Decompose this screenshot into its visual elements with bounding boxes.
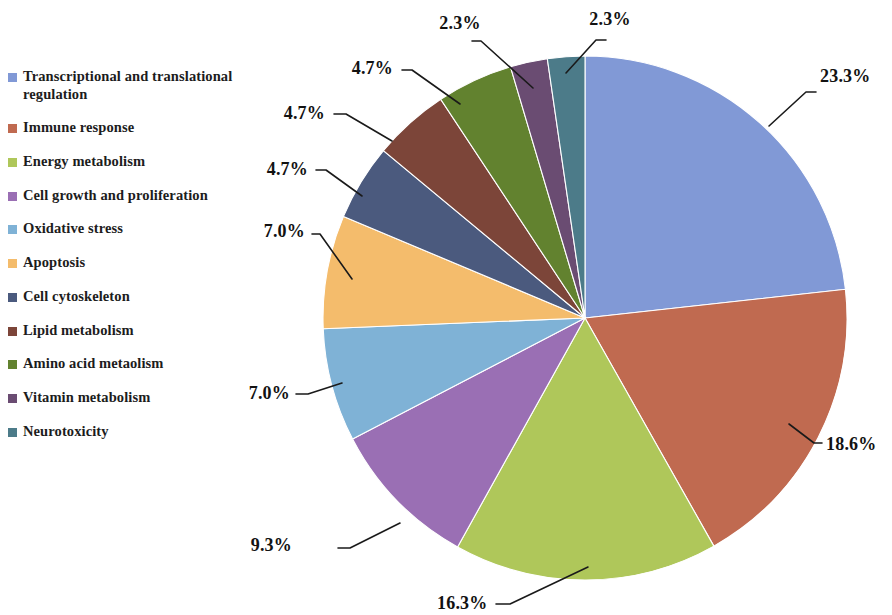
- slice-percentage-label: 9.3%: [251, 535, 292, 555]
- slice-percentage-label: 7.0%: [264, 221, 305, 241]
- pie-chart-svg: 23.3%18.6%16.3%9.3%7.0%7.0%4.7%4.7%4.7%2…: [0, 0, 892, 615]
- slice-percentage-label: 4.7%: [352, 58, 393, 78]
- slice-percentage-label: 2.3%: [589, 9, 630, 29]
- leader-line: [334, 114, 392, 141]
- slice-percentage-label: 23.3%: [820, 66, 871, 86]
- pie-slices: [323, 56, 847, 580]
- leader-line: [338, 523, 400, 548]
- slice-percentage-label: 2.3%: [439, 13, 480, 33]
- leader-line: [769, 92, 816, 126]
- slice-percentage-label: 18.6%: [826, 434, 877, 454]
- slice-percentage-label: 16.3%: [437, 593, 488, 613]
- chart-page: Transcriptional and translational regula…: [0, 0, 892, 615]
- pie-slice[interactable]: [585, 56, 845, 318]
- slice-percentage-label: 7.0%: [249, 383, 290, 403]
- slice-percentage-label: 4.7%: [267, 159, 308, 179]
- slice-percentage-label: 4.7%: [284, 103, 325, 123]
- pie-chart: 23.3%18.6%16.3%9.3%7.0%7.0%4.7%4.7%4.7%2…: [0, 0, 892, 615]
